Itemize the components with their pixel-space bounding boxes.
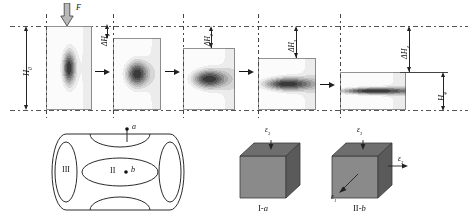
cube-1-caption: I-a bbox=[258, 204, 268, 213]
flow-arrowhead-4 bbox=[329, 82, 335, 88]
bottom-datum-line bbox=[10, 110, 468, 111]
axis-stage-0 bbox=[46, 14, 47, 118]
stress-cube-2 bbox=[330, 140, 420, 202]
billet-stage-2 bbox=[183, 48, 235, 110]
billet-stage-4 bbox=[340, 72, 406, 110]
cylinder-point-a-label: a bbox=[132, 123, 136, 131]
billet-stage-3 bbox=[258, 58, 316, 110]
billet-stage-1 bbox=[113, 38, 161, 110]
axis-stage-3 bbox=[258, 14, 259, 118]
cube-2-caption: II-b bbox=[353, 204, 366, 213]
h0-arrow-bottom bbox=[24, 105, 28, 110]
load-arrow-F bbox=[60, 3, 74, 27]
billet-stage-0 bbox=[46, 26, 92, 110]
dh4-arrow-top bbox=[407, 26, 411, 31]
dh3-arrow-bottom bbox=[294, 53, 298, 58]
axis-stage-2 bbox=[183, 14, 184, 118]
flow-arrowhead-1 bbox=[104, 69, 110, 75]
dh3-arrow-top bbox=[294, 26, 298, 31]
cube-1-strain-top-label: ε3 bbox=[265, 126, 270, 136]
cube-2-strain-top-label: ε3 bbox=[357, 126, 362, 136]
stress-cube-1 bbox=[238, 140, 312, 202]
axis-stage-1 bbox=[113, 14, 114, 118]
cylinder-zone-III-label: III bbox=[62, 166, 70, 174]
cube-2-strain-right-label: ε3 bbox=[398, 155, 403, 165]
dh2-label: ΔH2 bbox=[204, 34, 214, 46]
h4-arrow-bottom bbox=[441, 106, 445, 111]
cube-2-strain-diag-label: ε1 bbox=[331, 193, 336, 203]
figure-root: F H0 ΔH1 ΔH2 ΔH3 bbox=[0, 0, 472, 224]
h0-label: H0 bbox=[22, 67, 33, 76]
dh1-label: ΔH1 bbox=[101, 34, 111, 46]
h4-label: H4 bbox=[437, 92, 448, 101]
cylinder-point-b-label: b bbox=[131, 166, 135, 174]
dh2-arrow-top bbox=[209, 26, 213, 31]
h0-arrow-top bbox=[24, 26, 28, 31]
dh1-arrow-top bbox=[105, 24, 109, 29]
dh4-label: ΔH4 bbox=[401, 46, 412, 59]
load-label-F: F bbox=[76, 4, 81, 12]
cylinder-zone-II-label: II bbox=[110, 167, 115, 175]
dh3-label: ΔH3 bbox=[288, 40, 298, 52]
h4-arrow-top bbox=[441, 72, 445, 77]
axis-stage-4 bbox=[340, 14, 341, 118]
cylinder-cross-section: III II a b bbox=[48, 126, 188, 218]
flow-arrowhead-3 bbox=[248, 69, 254, 75]
flow-arrowhead-2 bbox=[174, 69, 180, 75]
